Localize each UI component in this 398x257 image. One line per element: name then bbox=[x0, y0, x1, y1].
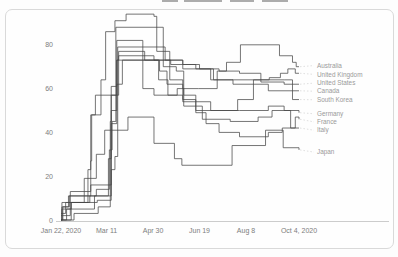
figure-screenshot: 020406080Jan 22, 2020Mar 11Apr 30Jun 19A… bbox=[0, 0, 398, 257]
legend-label: Japan bbox=[317, 148, 335, 156]
legend-leader-line bbox=[300, 73, 314, 74]
y-tick-label: 80 bbox=[45, 41, 53, 48]
x-tick-label: Apr 30 bbox=[143, 227, 164, 235]
x-tick-label: Oct 4, 2020 bbox=[281, 227, 317, 234]
y-tick-label: 40 bbox=[45, 129, 53, 136]
series-line-south-korea bbox=[61, 40, 299, 213]
x-tick-label: Jan 22, 2020 bbox=[41, 227, 82, 234]
x-tick-label: Aug 8 bbox=[237, 227, 255, 235]
legend-leader-line bbox=[300, 128, 314, 130]
legend-label: Australia bbox=[317, 62, 342, 69]
x-tick-label: Jun 19 bbox=[189, 227, 210, 234]
series-line-japan bbox=[61, 117, 299, 216]
legend-leader-line bbox=[300, 119, 314, 122]
legend-leader-line bbox=[300, 83, 314, 84]
series-line-france bbox=[61, 27, 299, 220]
legend-label: South Korea bbox=[317, 96, 353, 103]
x-tick-label: Mar 11 bbox=[96, 227, 117, 234]
legend-label: Italy bbox=[317, 126, 330, 134]
legend-leader-line bbox=[300, 113, 314, 114]
legend-leader-line bbox=[300, 66, 314, 67]
legend-label: United States bbox=[317, 79, 355, 86]
legend-label: France bbox=[317, 118, 337, 125]
y-tick-label: 60 bbox=[45, 85, 53, 92]
y-tick-label: 20 bbox=[45, 173, 53, 180]
legend-label: Germany bbox=[317, 110, 344, 118]
legend-label: United Kingdom bbox=[317, 71, 362, 79]
y-tick-label: 0 bbox=[49, 217, 53, 224]
legend-label: Canada bbox=[317, 87, 340, 94]
legend-leader-line bbox=[300, 150, 314, 152]
stringency-line-chart: 020406080Jan 22, 2020Mar 11Apr 30Jun 19A… bbox=[0, 0, 398, 257]
